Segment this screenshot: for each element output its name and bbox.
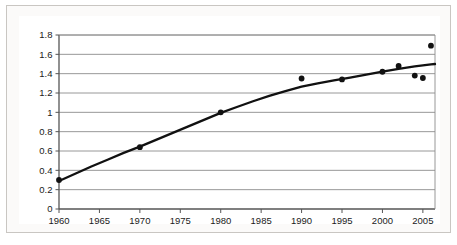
axis-ticks [56,35,423,213]
x-tick-label: 1970 [129,215,150,224]
data-point [428,43,434,49]
y-tick-label: 1 [47,107,52,118]
y-axis-tick-labels: 00.20.40.60.811.21.41.61.8 [39,29,52,214]
x-tick-label: 1995 [331,215,352,224]
y-tick-label: 0.4 [39,165,52,176]
y-tick-label: 1.6 [39,49,52,60]
data-point [218,109,224,115]
data-point [380,69,386,75]
gridlines [59,35,435,190]
data-point [56,177,62,183]
data-point [420,75,426,81]
data-point [339,77,345,83]
y-tick-label: 0 [47,203,52,214]
x-tick-label: 2000 [372,215,393,224]
data-point [299,76,305,82]
data-points [56,43,434,183]
data-point [396,63,402,69]
fitted-trend-curve [59,64,435,181]
y-tick-label: 1.8 [39,29,52,40]
x-tick-label: 1960 [48,215,69,224]
x-tick-label: 1980 [210,215,231,224]
x-tick-label: 2005 [412,215,433,224]
data-point [137,144,143,150]
data-point [412,73,418,79]
x-tick-label: 1985 [251,215,272,224]
x-tick-label: 1965 [89,215,110,224]
paper-frame: 00.20.40.60.811.21.41.61.8 1960196519701… [6,5,451,233]
x-tick-label: 1975 [170,215,191,224]
chart-figure: 00.20.40.60.811.21.41.61.8 1960196519701… [0,0,457,245]
x-tick-label: 1990 [291,215,312,224]
y-tick-label: 0.2 [39,184,52,195]
axes [59,35,435,209]
y-tick-label: 0.8 [39,126,52,137]
y-tick-label: 0.6 [39,145,52,156]
y-tick-label: 1.2 [39,87,52,98]
plot-card: 00.20.40.60.811.21.41.61.8 1960196519701… [19,16,440,224]
scatter-chart: 00.20.40.60.811.21.41.61.8 1960196519701… [19,16,440,224]
trend-line [59,64,435,181]
y-tick-label: 1.4 [39,68,52,79]
x-axis-tick-labels: 1960196519701975198019851990199520002005 [48,215,433,224]
